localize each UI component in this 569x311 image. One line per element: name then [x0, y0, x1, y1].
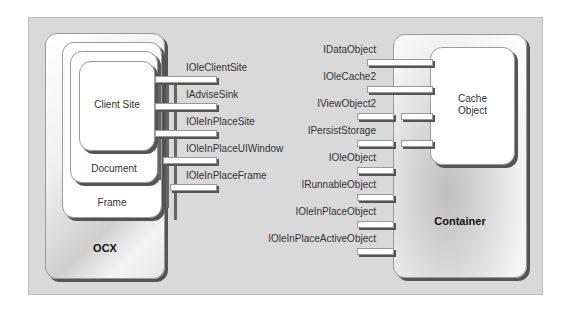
interface-pin-ipersist-storage	[357, 140, 394, 147]
interface-pin-iole-inplace-active-object	[357, 248, 394, 255]
cache-object-label-line1: Cache	[430, 93, 515, 105]
interface-pin-iadvise-sink	[155, 103, 217, 110]
ocx-label: OCX	[45, 242, 165, 254]
interface-pin-iole-inplace-object	[357, 221, 394, 228]
interface-label: IOleClientSite	[186, 62, 247, 73]
container-label: Container	[393, 215, 527, 227]
cache-object-label-line2: Object	[430, 105, 515, 117]
client-site-label: Client Site	[79, 99, 155, 110]
interface-pin-iole-inplace-frame	[170, 184, 217, 191]
interface-pin-iview-object2	[357, 113, 394, 120]
interface-pin-irunnable-object	[357, 194, 394, 201]
interface-pin-iole-cache2	[367, 86, 433, 93]
interface-pin-ipersist-storage-cache	[401, 140, 433, 147]
interface-label: IRunnableObject	[302, 179, 377, 190]
interface-label: IOleObject	[329, 152, 376, 163]
interface-pin-iview-object2-cache	[401, 113, 433, 120]
interface-label: IOleCache2	[323, 71, 376, 82]
connector-line	[166, 80, 169, 208]
interface-label: IViewObject2	[317, 98, 376, 109]
interface-label: IAdviseSink	[186, 89, 238, 100]
interface-pin-iole-inplace-uiwindow	[163, 157, 217, 164]
interface-pin-idata-object	[367, 59, 433, 66]
cache-object-label: Cache Object	[430, 93, 515, 117]
interface-label: IOleInPlaceObject	[295, 206, 376, 217]
interface-label: IPersistStorage	[308, 125, 376, 136]
interface-label: IOleInPlaceUIWindow	[186, 143, 283, 154]
interface-pin-iole-object	[357, 167, 394, 174]
interface-pin-iole-client-site	[155, 76, 217, 83]
connector-line	[174, 80, 177, 220]
document-label: Document	[70, 163, 158, 174]
interface-label: IOleInPlaceSite	[186, 116, 255, 127]
interface-label: IOleInPlaceActiveObject	[268, 233, 376, 244]
interface-label: IOleInPlaceFrame	[186, 170, 267, 181]
interface-pin-iole-inplace-site	[155, 130, 217, 137]
frame-label: Frame	[62, 197, 162, 208]
interface-label: IDataObject	[323, 44, 376, 55]
